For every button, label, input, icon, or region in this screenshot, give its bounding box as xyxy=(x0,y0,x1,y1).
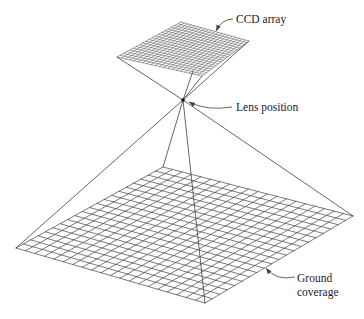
ground-coverage-label-line1: Ground xyxy=(297,272,332,284)
ccd-left-to-lens xyxy=(117,57,183,100)
ccd-array-grid xyxy=(117,22,249,76)
acquisition-geometry-diagram: CCD array Lens position Ground coverage xyxy=(0,0,364,319)
ccd-array-label: CCD array xyxy=(236,13,286,26)
projection-rays xyxy=(16,41,353,303)
ground-coverage-label-line2: coverage xyxy=(297,286,339,299)
figure-canvas: CCD array Lens position Ground coverage xyxy=(0,0,364,319)
ccd-array-leader xyxy=(216,19,233,31)
lens-position-label: Lens position xyxy=(236,101,299,114)
ccd-bottom-to-lens xyxy=(183,76,202,100)
lens-to-ground-right xyxy=(183,100,353,216)
lens-to-ground-top xyxy=(163,100,183,167)
ground-coverage-leader xyxy=(266,268,295,278)
ccd-array-leader-head xyxy=(216,25,221,31)
lens-position-leader xyxy=(189,102,232,108)
lens-point-dot xyxy=(181,98,185,102)
